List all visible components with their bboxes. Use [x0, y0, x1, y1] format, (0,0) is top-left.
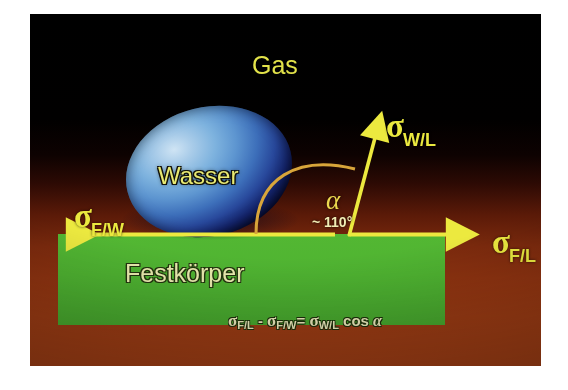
- sigma-subscript-fw: F/W: [91, 220, 124, 240]
- eq-sigma-fl-sub: F/L: [237, 319, 254, 331]
- slide-photo: Gas Wasser Festkörper σF/W σF/L σW/L α ~…: [30, 14, 541, 366]
- eq-sigma-fw-sub: F/W: [276, 319, 296, 331]
- label-sigma-wl: σW/L: [386, 110, 437, 143]
- eq-sigma-wl-glyph: σ: [309, 311, 318, 330]
- eq-sigma-fl-glyph: σ: [228, 311, 237, 330]
- label-sigma-fw: σF/W: [74, 200, 125, 233]
- eq-sigma-wl-sub: W/L: [319, 319, 339, 331]
- eq-alpha: α: [373, 312, 382, 329]
- sigma-glyph-fl: σ: [492, 224, 510, 260]
- sigma-subscript-wl: W/L: [403, 130, 436, 150]
- angle-value-label: ~ 110°: [312, 214, 352, 230]
- arrow-sigma-wl: [349, 134, 376, 236]
- label-gas: Gas: [252, 53, 298, 78]
- label-water: Wasser: [158, 164, 238, 188]
- angle-symbol-alpha: α: [326, 185, 340, 216]
- eq-minus: -: [258, 312, 263, 329]
- figure-canvas: Gas Wasser Festkörper σF/W σF/L σW/L α ~…: [0, 0, 568, 390]
- eq-sigma-fw-glyph: σ: [267, 311, 276, 330]
- sigma-subscript-fl: F/L: [509, 246, 536, 266]
- eq-cos: cos: [343, 312, 369, 329]
- young-equation: σF/L - σF/W= σW/L cos α: [228, 311, 382, 331]
- eq-equals: =: [297, 312, 306, 329]
- label-sigma-fl: σF/L: [492, 226, 537, 259]
- sigma-glyph-fw: σ: [74, 198, 92, 234]
- label-solid: Festkörper: [125, 261, 244, 286]
- sigma-glyph-wl: σ: [386, 108, 404, 144]
